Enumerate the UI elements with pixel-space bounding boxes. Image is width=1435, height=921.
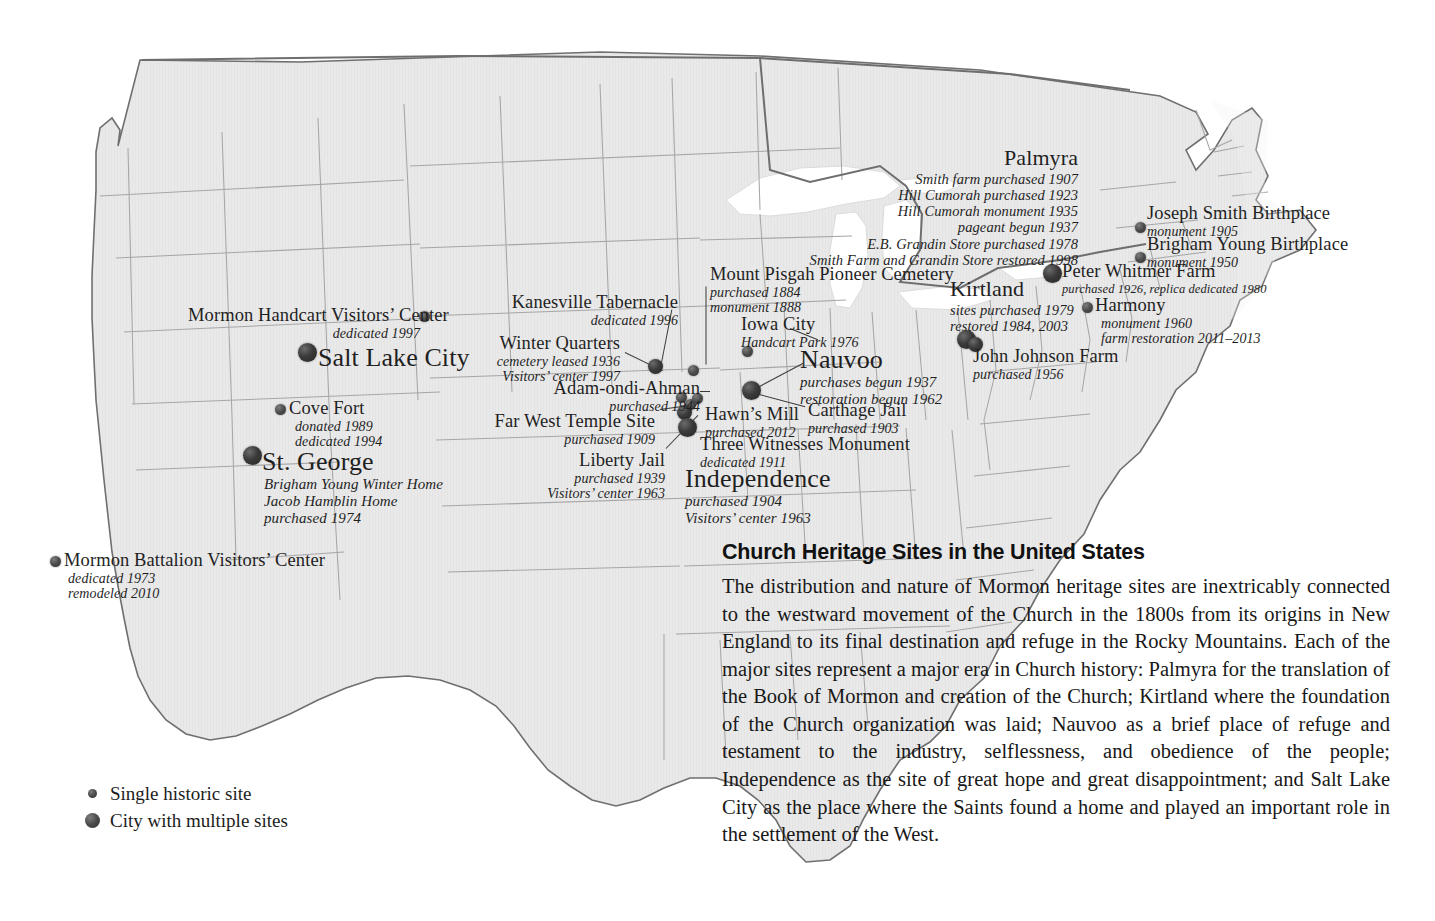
label-independence-line-1: Visitors’ center 1963: [685, 510, 831, 527]
label-mount-pisgah-name: Mount Pisgah Pioneer Cemetery: [710, 264, 954, 285]
label-liberty-jail-name: Liberty Jail: [470, 450, 665, 471]
label-cove-fort-name: Cove Fort: [289, 398, 382, 419]
label-mormon-battalion-name: Mormon Battalion Visitors’ Center: [64, 550, 325, 571]
label-mormon-handcart-name: Mormon Handcart Visitors’ Center: [188, 305, 420, 326]
map-legend: Single historic site City with multiple …: [85, 780, 288, 834]
label-harmony-line-0: monument 1960: [1095, 316, 1261, 332]
marker-harmony[interactable]: [1082, 302, 1093, 313]
label-mount-pisgah: Mount Pisgah Pioneer Cemetery purchased …: [710, 264, 954, 316]
description-panel: Church Heritage Sites in the United Stat…: [722, 540, 1390, 849]
label-joseph-smith-birthplace-name: Joseph Smith Birthplace: [1147, 203, 1330, 224]
label-nauvoo: Nauvoo purchases begun 1937 restoration …: [800, 345, 942, 408]
label-john-johnson-farm-line-0: purchased 1956: [973, 367, 1119, 383]
label-liberty-jail-line-0: purchased 1939: [470, 471, 665, 487]
marker-joseph-smith-birthplace[interactable]: [1135, 222, 1146, 233]
label-palmyra-line-0: Smith farm purchased 1907: [700, 171, 1078, 187]
label-john-johnson-farm-name: John Johnson Farm: [973, 346, 1119, 367]
label-kirtland-name: Kirtland: [950, 277, 1074, 302]
label-iowa-city-name: Iowa City: [741, 314, 859, 335]
label-liberty-jail: Liberty Jail purchased 1939 Visitors’ ce…: [470, 450, 665, 502]
label-liberty-jail-line-1: Visitors’ center 1963: [470, 486, 665, 502]
label-mormon-battalion-line-0: dedicated 1973: [64, 571, 325, 587]
label-palmyra-line-1: Hill Cumorah purchased 1923: [700, 187, 1078, 203]
label-peter-whitmer-farm-name: Peter Whitmer Farm: [1062, 261, 1267, 282]
marker-winter-quarters[interactable]: [648, 359, 663, 374]
leader-line-mountpisgah: [706, 287, 707, 365]
label-kirtland-line-0: sites purchased 1979: [950, 302, 1074, 318]
label-kanesville-tabernacle-name: Kanesville Tabernacle: [460, 292, 678, 313]
marker-nauvoo[interactable]: [742, 381, 761, 400]
legend-multiple-sites-dot-icon: [85, 813, 100, 828]
description-heading: Church Heritage Sites in the United Stat…: [722, 540, 1390, 565]
label-carthage-jail: Carthage Jail purchased 1903: [808, 400, 906, 436]
marker-salt-lake-city[interactable]: [298, 343, 317, 362]
label-nauvoo-line-0: purchases begun 1937: [800, 374, 942, 391]
label-st-george-line-2: purchased 1974: [262, 510, 443, 527]
label-palmyra-line-4: E.B. Grandin Store purchased 1978: [700, 236, 1078, 252]
label-three-witnesses-monument-name: Three Witnesses Monument: [700, 434, 910, 455]
marker-st-george[interactable]: [243, 446, 262, 465]
label-kirtland-line-1: restored 1984, 2003: [950, 318, 1074, 334]
label-st-george: St. George Brigham Young Winter Home Jac…: [262, 447, 443, 527]
label-john-johnson-farm: John Johnson Farm purchased 1956: [973, 346, 1119, 382]
label-harmony-name: Harmony: [1095, 295, 1261, 316]
label-independence-line-0: purchased 1904: [685, 493, 831, 510]
label-salt-lake-city: Salt Lake City: [318, 343, 470, 372]
description-body: The distribution and nature of Mormon he…: [722, 573, 1390, 849]
legend-single-site-dot-icon: [88, 789, 97, 798]
label-independence-name: Independence: [685, 464, 831, 493]
label-independence: Independence purchased 1904 Visitors’ ce…: [685, 464, 831, 527]
marker-mormon-battalion[interactable]: [50, 556, 61, 567]
leader-line-adamondiahman: [700, 391, 710, 392]
marker-independence[interactable]: [678, 418, 697, 437]
label-st-george-line-1: Jacob Hamblin Home: [262, 493, 443, 510]
legend-multiple-sites-label: City with multiple sites: [110, 810, 288, 832]
legend-item-single-site: Single historic site: [85, 780, 288, 807]
label-mormon-handcart-line-0: dedicated 1997: [188, 326, 420, 342]
label-adam-ondi-ahman: Adam-ondi-Ahman purchased 1944: [480, 378, 700, 414]
label-far-west-temple-site: Far West Temple Site purchased 1909: [450, 411, 655, 447]
label-mount-pisgah-line-0: purchased 1884: [710, 285, 954, 301]
label-nauvoo-name: Nauvoo: [800, 345, 942, 374]
label-palmyra: Palmyra Smith farm purchased 1907 Hill C…: [700, 146, 1078, 268]
marker-mount-pisgah[interactable]: [688, 365, 699, 376]
label-salt-lake-city-name: Salt Lake City: [318, 343, 470, 372]
label-kanesville-tabernacle-line-0: dedicated 1996: [460, 313, 678, 329]
legend-item-multiple-sites: City with multiple sites: [85, 807, 288, 834]
label-palmyra-line-3: pageant begun 1937: [700, 219, 1078, 235]
map-figure: Palmyra Smith farm purchased 1907 Hill C…: [0, 0, 1435, 921]
label-harmony: Harmony monument 1960 farm restoration 2…: [1095, 295, 1261, 347]
label-hawns-mill-name: Hawn’s Mill: [705, 404, 799, 425]
label-mormon-handcart: Mormon Handcart Visitors’ Center dedicat…: [188, 305, 420, 341]
label-cove-fort-line-0: donated 1989: [289, 419, 382, 435]
label-kanesville-tabernacle: Kanesville Tabernacle dedicated 1996: [460, 292, 678, 328]
label-palmyra-name: Palmyra: [700, 146, 1078, 171]
marker-cove-fort[interactable]: [275, 404, 286, 415]
label-brigham-young-birthplace-name: Brigham Young Birthplace: [1147, 234, 1348, 255]
label-harmony-line-1: farm restoration 2011–2013: [1095, 331, 1261, 347]
label-mormon-battalion: Mormon Battalion Visitors’ Center dedica…: [64, 550, 325, 602]
label-kirtland: Kirtland sites purchased 1979 restored 1…: [950, 277, 1074, 334]
label-st-george-line-0: Brigham Young Winter Home: [262, 476, 443, 493]
legend-single-site-label: Single historic site: [110, 783, 251, 805]
label-cove-fort: Cove Fort donated 1989 dedicated 1994: [289, 398, 382, 450]
label-adam-ondi-ahman-name: Adam-ondi-Ahman: [480, 378, 700, 399]
label-st-george-name: St. George: [262, 447, 443, 476]
label-mormon-battalion-line-1: remodeled 2010: [64, 586, 325, 602]
label-far-west-temple-site-name: Far West Temple Site: [450, 411, 655, 432]
label-carthage-jail-name: Carthage Jail: [808, 400, 906, 421]
label-far-west-temple-site-line-0: purchased 1909: [450, 432, 655, 448]
label-peter-whitmer-farm: Peter Whitmer Farm purchased 1926, repli…: [1062, 261, 1267, 296]
label-palmyra-line-2: Hill Cumorah monument 1935: [700, 203, 1078, 219]
label-peter-whitmer-farm-line-0: purchased 1926, replica dedicated 1980: [1062, 282, 1267, 296]
